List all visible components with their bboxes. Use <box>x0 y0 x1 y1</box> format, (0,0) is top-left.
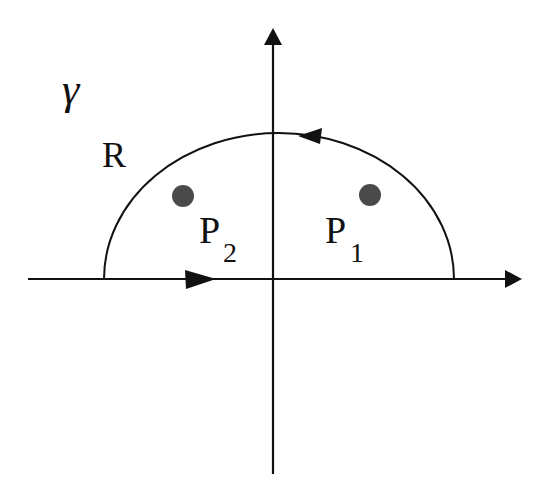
imaginary-axis <box>264 28 282 474</box>
pole-p2-label: P <box>199 209 220 251</box>
semicircle-contour <box>104 128 454 289</box>
real-axis <box>28 270 522 288</box>
pole-p1-subscript: 1 <box>350 237 364 268</box>
pole-p2-subscript: 2 <box>223 237 237 268</box>
contour-subscript: R <box>102 135 126 175</box>
axis-arrow-up-icon <box>264 28 282 45</box>
segment-direction-arrow-icon <box>185 270 216 289</box>
axis-arrow-right-icon <box>505 270 522 288</box>
contour-diagram: γ R P 2 P 1 <box>0 0 550 495</box>
pole-p2-dot <box>172 185 194 207</box>
pole-p1-label: P <box>325 209 346 251</box>
arc-direction-arrow-icon <box>298 128 322 144</box>
contour-symbol: γ <box>62 65 81 114</box>
pole-p1-dot <box>359 184 381 206</box>
